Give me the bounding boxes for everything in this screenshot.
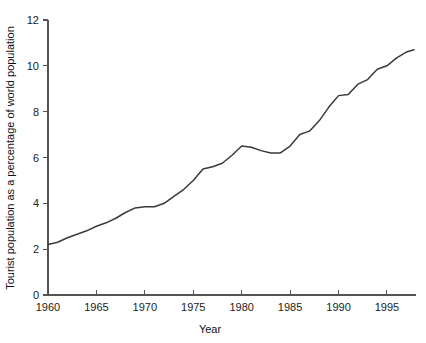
x-tick-label: 1995 xyxy=(375,301,399,313)
x-tick-label: 1960 xyxy=(36,301,60,313)
x-axis-ticks: 19601965197019751980198519901995 xyxy=(36,290,399,313)
y-tick-label: 12 xyxy=(27,14,39,26)
x-tick-label: 1970 xyxy=(133,301,157,313)
data-series-group xyxy=(48,50,414,245)
y-tick-label: 8 xyxy=(33,106,39,118)
y-axis-title: Tourist population as a percentage of wo… xyxy=(4,26,16,290)
y-tick-label: 4 xyxy=(33,197,39,209)
axes xyxy=(48,20,416,295)
line-chart: 024681012 196019651970197519801985199019… xyxy=(0,0,426,343)
y-tick-label: 2 xyxy=(33,243,39,255)
y-axis-ticks: 024681012 xyxy=(27,14,48,301)
x-tick-label: 1980 xyxy=(229,301,253,313)
x-axis-title: Year xyxy=(199,323,222,335)
y-tick-label: 0 xyxy=(33,289,39,301)
x-tick-label: 1975 xyxy=(181,301,205,313)
y-tick-label: 10 xyxy=(27,60,39,72)
x-tick-label: 1990 xyxy=(326,301,350,313)
x-tick-label: 1965 xyxy=(84,301,108,313)
data-line-tourist-population xyxy=(48,50,414,245)
chart-page: 024681012 196019651970197519801985199019… xyxy=(0,0,426,343)
x-tick-label: 1985 xyxy=(278,301,302,313)
y-tick-label: 6 xyxy=(33,152,39,164)
